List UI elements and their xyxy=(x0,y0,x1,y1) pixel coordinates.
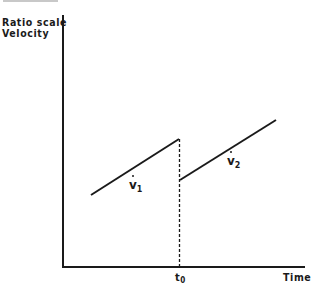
v2-label: v2 xyxy=(227,154,240,170)
v2-subscript: 2 xyxy=(235,161,241,170)
y-axis-label-line-2: Velocity xyxy=(2,28,67,39)
x-axis-label: Time xyxy=(283,272,311,283)
v2-symbol: v xyxy=(227,154,235,168)
top-text-fragment xyxy=(3,0,58,2)
t0-marker-label: t0 xyxy=(175,272,186,286)
v1-subscript: 1 xyxy=(137,185,143,194)
y-axis-label: Ratio scale Velocity xyxy=(2,17,67,39)
t0-subscript: 0 xyxy=(180,276,186,285)
velocity-diagram xyxy=(0,0,314,288)
v1-symbol: v xyxy=(129,178,137,192)
v1-label: v1 xyxy=(129,178,142,194)
v2-segment xyxy=(180,120,276,180)
